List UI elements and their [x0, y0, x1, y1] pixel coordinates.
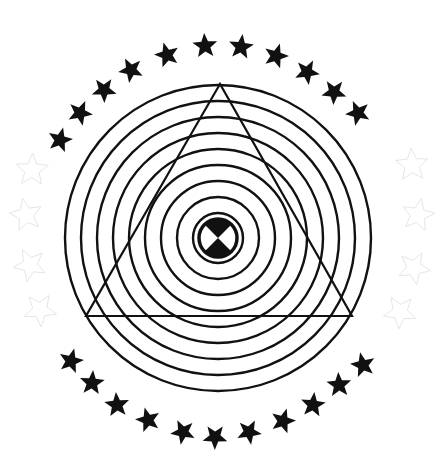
star-icon — [60, 348, 84, 373]
star-icon — [49, 127, 73, 152]
star-icon — [345, 101, 369, 126]
faint-star-icon — [403, 198, 435, 230]
star-icon — [118, 59, 142, 83]
star-icon — [301, 392, 326, 416]
star-icon — [237, 420, 261, 444]
star-icon — [154, 43, 178, 68]
star-icon — [350, 352, 374, 377]
faint-star-icon — [24, 296, 56, 327]
star-icon — [135, 407, 159, 432]
center-disc-icon — [199, 219, 237, 257]
star-icon — [322, 81, 347, 105]
faint-star-icon — [399, 253, 431, 285]
faint-star-icon — [13, 250, 45, 282]
faint-star-icon — [16, 153, 48, 184]
star-icon — [170, 420, 194, 445]
star-icon — [80, 370, 105, 394]
faint-star-icon — [384, 298, 416, 329]
star-icon — [104, 392, 129, 416]
star-icon — [69, 101, 93, 126]
emblem-artwork — [0, 0, 443, 473]
faint-star-icon — [396, 148, 428, 179]
star-icon — [265, 44, 289, 69]
star-icon — [295, 61, 320, 85]
star-icon — [92, 79, 117, 103]
star-icon — [192, 33, 217, 57]
star-icon — [326, 372, 351, 396]
star-icon — [203, 426, 228, 450]
faint-star-icon — [9, 198, 41, 230]
emblem-figure: Concentric rings emblem with triangle an… — [0, 0, 443, 473]
star-icon — [229, 34, 254, 58]
star-icon — [272, 409, 296, 434]
